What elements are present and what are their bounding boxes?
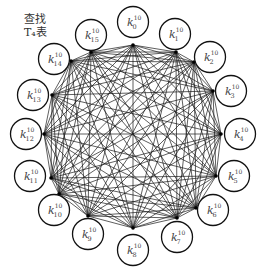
node-label: k1011 (24, 168, 38, 185)
graph-node-k13: k1013 (18, 80, 54, 111)
graph-edge (71, 61, 221, 134)
graph-node-k9: k109 (73, 214, 104, 249)
node-hub-point (219, 132, 223, 136)
graph-edge (88, 216, 177, 218)
graph-edges (44, 45, 221, 228)
graph-node-k11: k1011 (15, 161, 53, 192)
node-hub-point (50, 93, 54, 97)
node-hub-point (131, 226, 135, 230)
graph-node-k8: k108 (118, 226, 149, 265)
node-hub-point (174, 50, 178, 54)
graph-edge (71, 61, 194, 62)
graph-node-k10: k1010 (39, 192, 70, 225)
graph-node-k4: k104 (219, 119, 255, 150)
node-hub-point (214, 174, 218, 178)
graph-node-k2: k102 (192, 42, 225, 73)
graph-edge (194, 62, 196, 208)
complete-graph-diagram: k100k101k102k103k104k105k106k107k108k109… (0, 0, 264, 273)
graph-node-k12: k1012 (11, 119, 46, 150)
node-hub-point (175, 216, 179, 220)
node-hub-point (86, 214, 90, 218)
graph-node-k1: k101 (160, 19, 191, 54)
node-label: k1013 (27, 87, 41, 104)
graph-node-k3: k103 (211, 76, 246, 107)
graph-edge (88, 91, 213, 216)
node-label: k1015 (85, 27, 99, 44)
node-label: k1014 (48, 51, 62, 68)
graph-edge (196, 91, 213, 208)
graph-node-k7: k107 (162, 216, 193, 252)
graph-node-k5: k105 (214, 161, 249, 192)
graph-node-k0: k100 (118, 7, 149, 47)
node-label: k1010 (48, 202, 62, 219)
node-hub-point (49, 176, 53, 180)
node-hub-point (211, 89, 215, 93)
node-hub-point (42, 132, 46, 136)
graph-node-k15: k1015 (76, 20, 107, 54)
node-hub-point (131, 43, 135, 47)
node-label: k1012 (20, 126, 34, 143)
